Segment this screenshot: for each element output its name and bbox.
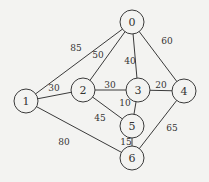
node-label: 2 (80, 84, 87, 97)
edge-weight-label: 80 (58, 137, 70, 147)
edge-weight-label: 15 (120, 137, 132, 147)
edge-weight-label: 10 (119, 98, 131, 108)
node-label: 0 (129, 16, 136, 29)
edge-weight-label: 45 (94, 113, 106, 123)
node-label: 5 (129, 120, 136, 133)
edge-weight-label: 65 (166, 123, 178, 133)
node-6: 6 (120, 146, 144, 170)
node-label: 4 (181, 85, 188, 98)
node-1: 1 (14, 89, 38, 113)
node-3: 3 (126, 78, 150, 102)
node-0: 0 (120, 10, 144, 34)
edge-weight-label: 30 (48, 83, 60, 93)
edge-weight-label: 85 (70, 43, 82, 53)
node-5: 5 (120, 114, 144, 138)
edge-weight-label: 50 (92, 50, 104, 60)
node-label: 3 (135, 84, 142, 97)
graph-diagram: 855040603080304520101565 0123456 (0, 0, 209, 182)
node-2: 2 (71, 78, 95, 102)
graph-svg: 855040603080304520101565 0123456 (0, 0, 209, 182)
node-label: 6 (129, 152, 136, 165)
edge-weight-label: 30 (104, 80, 116, 90)
edge-weight-label: 40 (124, 56, 136, 66)
node-label: 1 (23, 95, 30, 108)
edge-weight-label: 60 (161, 36, 173, 46)
edge-labels-layer: 855040603080304520101565 (48, 36, 178, 147)
edge-1-6 (26, 101, 132, 158)
edge-weight-label: 20 (155, 80, 167, 90)
node-4: 4 (172, 79, 196, 103)
